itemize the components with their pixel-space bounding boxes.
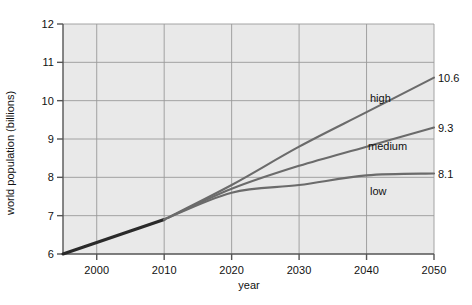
population-projection-chart: world population (billions) year 6789101…	[0, 0, 472, 305]
y-axis-title: world population (billions)	[4, 78, 16, 228]
x-tick-label: 2000	[84, 264, 109, 276]
x-tick-label: 2010	[152, 264, 177, 276]
series-label-medium: medium	[368, 140, 407, 152]
y-tick-label: 6	[30, 248, 54, 260]
series-label-high: high	[370, 92, 391, 104]
y-tick-label: 7	[30, 210, 54, 222]
x-axis-title: year	[238, 279, 259, 291]
y-tick-label: 8	[30, 171, 54, 183]
series-label-low: low	[370, 185, 387, 197]
y-tick-label: 12	[30, 18, 54, 30]
end-value-medium: 9.3	[438, 122, 453, 134]
y-tick-label: 10	[30, 95, 54, 107]
x-tick-label: 2030	[287, 264, 312, 276]
chart-canvas	[0, 0, 472, 305]
y-tick-label: 11	[30, 56, 54, 68]
x-tick-label: 2050	[422, 264, 447, 276]
end-value-low: 8.1	[438, 168, 453, 180]
y-tick-label: 9	[30, 133, 54, 145]
x-tick-label: 2040	[354, 264, 379, 276]
x-tick-label: 2020	[219, 264, 244, 276]
end-value-high: 10.6	[438, 72, 459, 84]
